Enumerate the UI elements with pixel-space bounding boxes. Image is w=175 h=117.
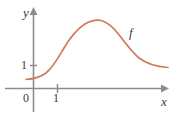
- y-axis-tick-label-1: 1: [21, 59, 27, 71]
- function-curve-f: [26, 20, 168, 79]
- y-axis-arrowhead: [30, 7, 38, 15]
- origin-label: 0: [23, 92, 29, 104]
- curve-label-f: f: [129, 26, 133, 39]
- x-axis-tick-label-1: 1: [53, 92, 59, 104]
- x-axis-label: x: [161, 95, 167, 108]
- function-graph-figure: y x f 0 1 1: [0, 0, 175, 117]
- x-axis-arrowhead: [161, 85, 169, 93]
- y-axis-label: y: [23, 6, 29, 19]
